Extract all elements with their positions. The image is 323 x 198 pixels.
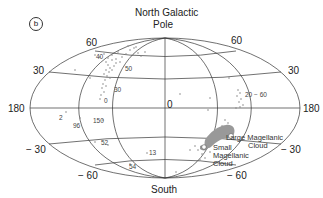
annotation-2: 2 [59, 114, 63, 121]
lat-minus60-right-label: − 60 [227, 171, 247, 181]
annotation-54: 54 [129, 163, 136, 170]
lat-minus30-right-label: − 30 [281, 145, 301, 155]
annotation-0: 0 [104, 97, 108, 104]
annotation-40: 40 [96, 53, 103, 60]
panel-label: b [29, 17, 43, 31]
bottom-label: South [151, 185, 177, 195]
lon-0-center-label: 0 [167, 100, 173, 110]
lat-30-left-label: 30 [33, 66, 44, 76]
lat-30-right-label: 30 [288, 66, 299, 76]
title-line-1: North Galactic [135, 8, 198, 18]
title-line-2: Pole [153, 20, 173, 30]
lat-60-right-label: 60 [231, 36, 242, 46]
annotation-30: 30 [114, 86, 121, 93]
lat-minus60-left-label: − 60 [78, 171, 98, 181]
annotation-20-60: 20 − 60 [245, 91, 267, 98]
lon-180-right-label: 180 [303, 104, 320, 114]
lat-60-left-label: 60 [86, 38, 97, 48]
annotation-150: 150 [93, 117, 104, 124]
annotation-50: 50 [125, 65, 132, 72]
galactic-sky-map: b North Galactic Pole South 60 60 30 30 … [0, 0, 323, 198]
annotation-52: 52 [101, 139, 108, 146]
annotation-13: 13 [149, 149, 156, 156]
annotation-96: 96 [73, 122, 80, 129]
lmc-label-line2: Cloud [248, 142, 268, 150]
lat-minus30-left-label: − 30 [26, 145, 46, 155]
smc-label-line3: Cloud [213, 160, 233, 168]
lon-180-left-label: 180 [8, 104, 25, 114]
